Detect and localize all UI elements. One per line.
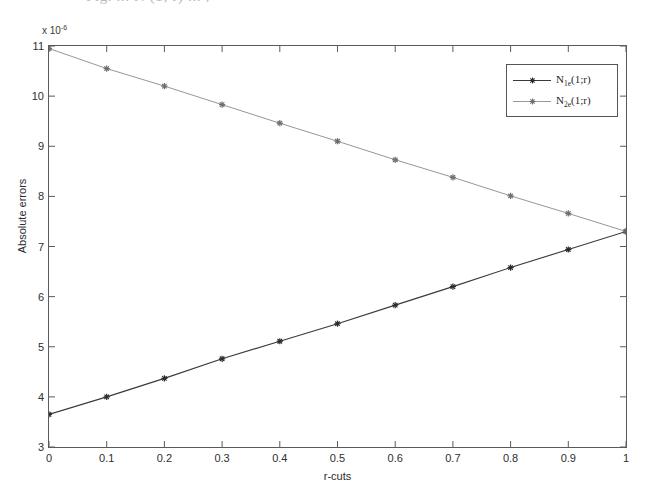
legend: N1e(1;r) N2e(1;r): [506, 64, 618, 117]
legend-label-series-1: N1e(1;r): [556, 73, 591, 88]
legend-item-series-1[interactable]: N1e(1;r): [513, 70, 611, 91]
y-axis-label: Absolute errors: [16, 146, 28, 286]
legend-label-series-1-sub: 1e: [564, 79, 571, 88]
figure-container: Fig. ... N (1; r) ... , x 10-6 345678910…: [0, 0, 646, 493]
legend-label-series-2-tail: (1;r): [571, 94, 591, 106]
y-tick-label: 5: [14, 341, 44, 353]
y-tick-label: 11: [14, 40, 44, 52]
y-tick-label: 3: [14, 441, 44, 453]
legend-label-series-2-base: N: [556, 94, 564, 106]
cut-off-caption: Fig. ... N (1; r) ... ,: [0, 0, 646, 18]
x-tick-label: 0.3: [214, 452, 229, 464]
x-tick-label: 0.6: [388, 452, 403, 464]
legend-swatch-series-1: [513, 75, 551, 87]
legend-label-series-2-sub: 2e: [564, 100, 571, 109]
y-axis-multiplier: x 10-6: [42, 24, 67, 36]
legend-label-series-2: N2e(1;r): [556, 94, 591, 109]
legend-item-series-2[interactable]: N2e(1;r): [513, 91, 611, 112]
x-axis-label: r-cuts: [48, 470, 627, 482]
y-tick-label: 10: [14, 90, 44, 102]
legend-label-series-1-base: N: [556, 73, 564, 85]
x-tick-label: 0.5: [330, 452, 345, 464]
cut-off-caption-text: Fig. ... N (1; r) ... ,: [86, 0, 210, 5]
y-axis-multiplier-exponent: -6: [61, 24, 67, 31]
legend-label-series-1-tail: (1;r): [571, 73, 591, 85]
y-tick-label: 4: [14, 391, 44, 403]
x-tick-label: 0.1: [99, 452, 114, 464]
x-tick-label: 0.8: [503, 452, 518, 464]
x-tick-label: 0.4: [272, 452, 287, 464]
y-tick-label: 6: [14, 291, 44, 303]
x-tick-label: 0.9: [561, 452, 576, 464]
x-tick-label: 0.2: [157, 452, 172, 464]
x-tick-label: 0: [46, 452, 52, 464]
series-line-1: [49, 228, 626, 417]
x-tick-label: 0.7: [445, 452, 460, 464]
x-tick-label: 1: [623, 452, 629, 464]
y-axis-multiplier-base: x 10: [42, 25, 61, 36]
legend-swatch-series-2: [513, 96, 551, 108]
x-axis-tick-labels: 00.10.20.30.40.50.60.70.80.91: [48, 452, 627, 472]
